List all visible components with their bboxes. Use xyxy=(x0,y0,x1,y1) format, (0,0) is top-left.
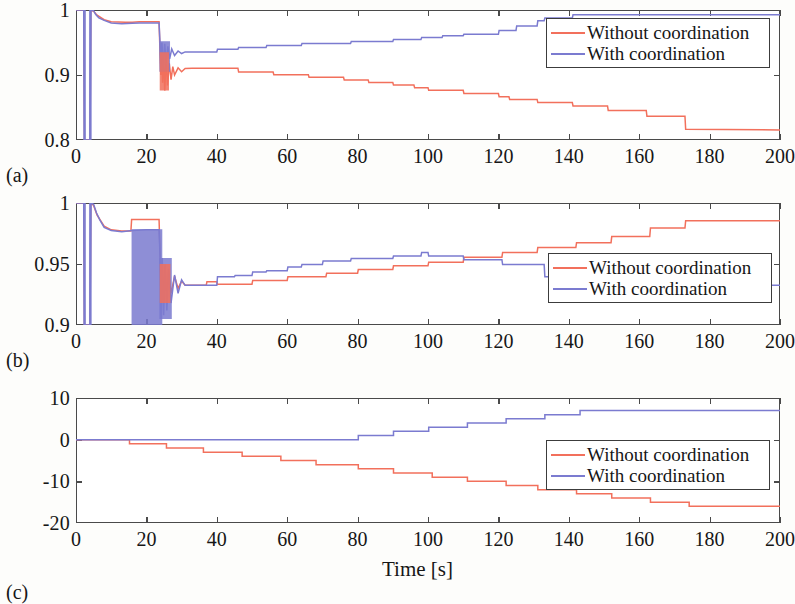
legend-line-without-icon xyxy=(551,454,585,456)
series-with-coordination-c xyxy=(76,411,780,440)
legend-item-without-coordination: Without coordination xyxy=(551,444,762,465)
legend-line-with-icon xyxy=(551,475,585,477)
legend-label-without: Without coordination xyxy=(587,445,749,464)
legend-item-with-coordination: With coordination xyxy=(551,465,762,486)
legend-label-with: With coordination xyxy=(587,466,725,485)
legend-c: Without coordinationWith coordination xyxy=(546,440,770,490)
